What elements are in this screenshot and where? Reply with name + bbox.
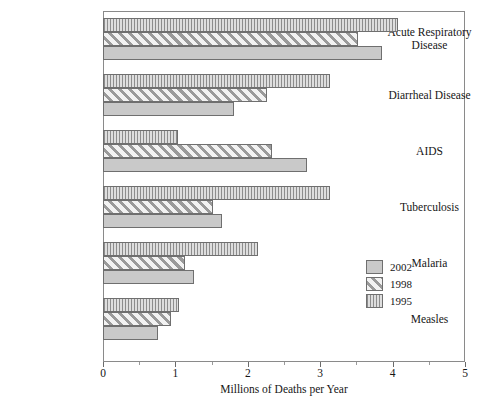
legend-swatch-solid-gray [366,260,383,274]
x-tick-label: 5 [450,367,478,379]
bar-2002 [103,158,307,172]
x-minor-tick-mark [212,362,213,365]
bar-1995 [103,298,179,312]
x-tick-label: 4 [378,367,408,379]
category-label: AIDS [381,145,478,158]
x-minor-tick-mark [284,362,285,365]
x-axis-title: Millions of Deaths per Year [103,383,465,395]
bar-chart: Acute Respiratory DiseaseDiarrheal Disea… [0,0,478,406]
legend-swatch-diagonal-hatch [366,277,383,291]
x-minor-tick-mark [139,362,140,365]
category-label: Diarrheal Disease [381,89,478,102]
x-tick-label: 2 [233,367,263,379]
x-minor-tick-mark [429,362,430,365]
bar-1995 [103,130,178,144]
bar-1995 [103,242,258,256]
bar-1998 [103,144,272,158]
category-label: Measles [381,313,478,326]
bar-1998 [103,256,185,270]
bar-1998 [103,312,171,326]
x-tick-label: 1 [160,367,190,379]
bar-2002 [103,46,382,60]
bar-1995 [103,74,330,88]
bar-1995 [103,186,330,200]
bar-2002 [103,270,194,284]
x-tick-label: 3 [305,367,335,379]
legend-swatch-vertical-hatch [366,294,383,308]
bar-1998 [103,88,267,102]
bar-2002 [103,326,158,340]
bar-1998 [103,32,358,46]
legend-label: 1995 [390,293,412,309]
legend-label: 2002 [390,259,412,275]
bar-1998 [103,200,213,214]
bar-2002 [103,214,222,228]
bar-1995 [103,18,398,32]
x-minor-tick-mark [356,362,357,365]
x-tick-label: 0 [88,367,118,379]
category-label: Tuberculosis [381,201,478,214]
bar-2002 [103,102,234,116]
legend-label: 1998 [390,276,412,292]
